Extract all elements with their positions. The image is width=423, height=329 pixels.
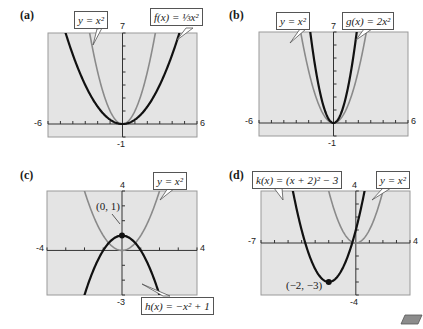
tick-b-xmin: -6 [245,116,253,126]
callout-d-base: y = x² [376,171,410,189]
tick-b-ymax: 7 [331,21,336,31]
tick-a-xmax: 6 [200,118,205,128]
point-label-d: (−2, −3) [286,279,322,291]
callout-c-base: y = x² [153,172,187,190]
tick-c-xmax: 4 [200,243,205,253]
tick-c-ymin: -3 [117,297,125,307]
tick-d-ymin: -4 [350,297,358,307]
tick-b-ymin: -1 [328,138,336,148]
tick-a-xmin: -6 [34,118,42,128]
graphs-canvas [0,0,423,329]
tick-b-xmax: 6 [411,116,416,126]
tick-d-xmin: -7 [248,236,256,246]
callout-d-k: k(x) = (x + 2)² − 3 [252,171,342,189]
callout-b-base: y = x² [276,12,310,30]
callout-c-h: h(x) = −x² + 1 [141,297,214,315]
tick-c-ymax: 4 [120,180,125,190]
plot-3 [261,126,410,295]
tick-d-ymax: 4 [352,180,357,190]
callout-a-f: f(x) = ⅓x² [150,8,203,26]
point-label-c: (0, 1) [96,200,120,212]
end-of-section-icon [400,314,423,326]
tick-a-ymax: 7 [120,21,125,31]
tick-c-xmin: -4 [36,243,44,253]
tick-d-xmax: 4 [413,236,418,246]
callout-a-base: y = x² [74,11,108,29]
tick-a-ymin: -1 [117,139,125,149]
callout-b-g: g(x) = 2x² [342,12,394,30]
